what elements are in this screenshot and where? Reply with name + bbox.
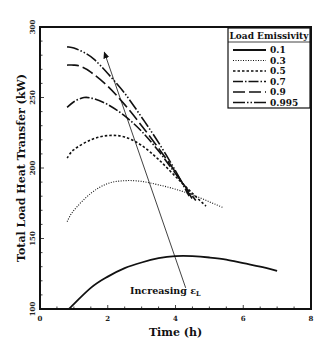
- y-minor-ticks: [40, 27, 44, 309]
- x-axis-title: Time (h): [149, 326, 202, 339]
- y-axis-title: Total Load Heat Transfer (kW): [15, 74, 28, 262]
- y-tick-100: 100: [28, 302, 37, 317]
- legend-title: Load Emissivity: [230, 31, 310, 41]
- legend-label-0.995: 0.995: [270, 98, 298, 108]
- legend: Load Emissivity 0.10.30.50.70.90.995: [228, 28, 310, 108]
- x-tick-6: 6: [241, 314, 246, 323]
- series-0.9: [67, 65, 192, 199]
- y-tick-300: 300: [28, 20, 37, 35]
- legend-label-0.5: 0.5: [270, 66, 286, 76]
- y-tick-250: 250: [28, 90, 37, 105]
- legend-label-0.9: 0.9: [270, 87, 286, 97]
- y-tick-150: 150: [28, 231, 37, 246]
- x-tick-0: 0: [38, 314, 43, 323]
- annotation-increasing: Increasing εL: [130, 285, 201, 298]
- legend-label-0.3: 0.3: [270, 56, 286, 66]
- line-chart: 0 2 4 6 8 100 150 200 250 300 Time (h) T…: [0, 0, 330, 351]
- y-tick-200: 200: [28, 161, 37, 176]
- x-tick-4: 4: [173, 314, 178, 323]
- series-0.1: [69, 256, 277, 309]
- x-tick-8: 8: [309, 314, 314, 323]
- x-tick-2: 2: [105, 314, 110, 323]
- x-tick-labels: 0 2 4 6 8: [38, 314, 314, 323]
- legend-label-0.1: 0.1: [270, 45, 286, 55]
- legend-label-0.7: 0.7: [270, 77, 286, 87]
- y-tick-labels: 100 150 200 250 300: [28, 20, 37, 317]
